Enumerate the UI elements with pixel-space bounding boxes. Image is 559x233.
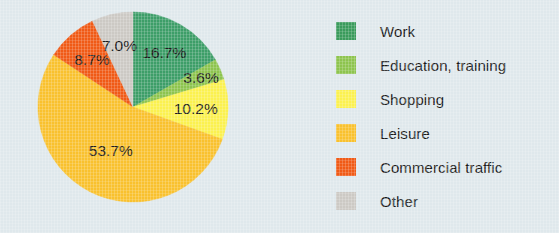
legend-item-label: Education, training — [380, 57, 506, 74]
legend-color-swatch — [336, 90, 356, 108]
pie-chart-figure: 16.7%3.6%10.2%53.7%8.7%7.0% WorkEducatio… — [0, 0, 559, 233]
pie-data-label: 3.6% — [183, 69, 219, 86]
legend-item[interactable]: Other — [336, 184, 551, 218]
legend-item[interactable]: Education, training — [336, 48, 551, 82]
pie-data-label: 53.7% — [89, 142, 133, 159]
legend-item-label: Other — [380, 193, 418, 210]
pie-data-label: 10.2% — [174, 100, 218, 117]
legend-item-label: Leisure — [380, 125, 430, 142]
legend-color-swatch — [336, 22, 356, 40]
legend-item-label: Commercial traffic — [380, 159, 502, 176]
pie-data-label: 16.7% — [142, 44, 186, 61]
legend-item-label: Shopping — [380, 91, 444, 108]
pie-data-label: 7.0% — [102, 37, 138, 54]
legend-color-swatch — [336, 124, 356, 142]
legend-color-swatch — [336, 192, 356, 210]
chart-legend: WorkEducation, trainingShoppingLeisureCo… — [336, 14, 551, 218]
pie-chart-svg: 16.7%3.6%10.2%53.7%8.7%7.0% — [0, 0, 300, 233]
legend-item[interactable]: Leisure — [336, 116, 551, 150]
legend-item[interactable]: Commercial traffic — [336, 150, 551, 184]
legend-color-swatch — [336, 56, 356, 74]
legend-color-swatch — [336, 158, 356, 176]
legend-item[interactable]: Work — [336, 14, 551, 48]
pie-chart-plot-area: 16.7%3.6%10.2%53.7%8.7%7.0% — [0, 0, 300, 233]
legend-item-label: Work — [380, 23, 415, 40]
legend-item[interactable]: Shopping — [336, 82, 551, 116]
